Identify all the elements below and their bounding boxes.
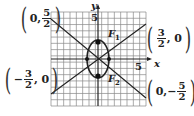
y-tick-label: 5 [91,12,98,23]
x-tick-label: 5 [135,61,142,72]
y-axis-label: y [91,0,97,11]
x-axis-arrow-icon [147,57,152,61]
point-label-bottom-right: ( 0, − 52 ) [144,76,194,106]
ellipse-diagram: y x 5 5 F1 F2 ( 0, 52 ) ( 32 , 0 ) ( − 3… [0,0,194,116]
point-label-right: ( 32 , 0 ) [144,23,194,53]
vertex-left [85,57,89,61]
x-axis-label: x [154,58,160,69]
point-label-top-left: ( 0, 52 ) [18,3,64,33]
focus-point-f1 [95,39,100,44]
point-label-left: ( − 32 , 0 ) [2,64,61,94]
vertex-right [107,57,111,61]
focus-point-f2 [95,73,100,78]
focus-label-f2: F2 [108,73,120,87]
focus-label-f1: F1 [108,28,120,42]
